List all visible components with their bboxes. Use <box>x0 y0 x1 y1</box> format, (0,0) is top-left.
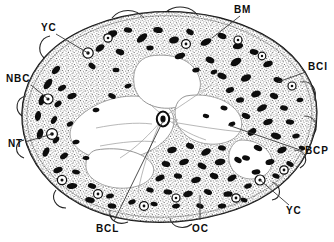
histology-figure: BM YC BCI NBC NT BCP YC BCL OC <box>0 0 334 242</box>
label-nbc: NBC <box>6 74 30 84</box>
label-bcp: BCP <box>305 146 329 156</box>
label-bci: BCI <box>308 62 328 72</box>
label-bcl: BCL <box>96 224 119 234</box>
label-oc: OC <box>192 224 209 234</box>
specimen-drawing <box>0 0 334 242</box>
label-bm: BM <box>234 5 251 15</box>
label-yc-top-left: YC <box>41 23 57 33</box>
label-nt: NT <box>8 139 23 149</box>
specimen-body <box>0 0 334 242</box>
central-ringed-cell <box>157 112 169 127</box>
label-yc-bottom-right: YC <box>286 206 302 216</box>
